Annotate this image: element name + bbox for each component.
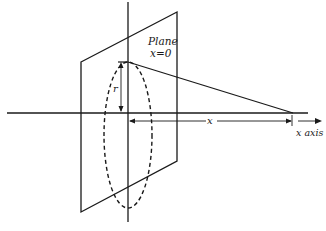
plane-label-line2: x=0 (150, 47, 172, 59)
distance-arrow-right-icon (286, 119, 292, 124)
distance-label: x (207, 115, 213, 126)
plane-label-line1: Plane (147, 35, 178, 47)
axis-label: x axis (296, 127, 323, 138)
axis-arrow-right-icon (315, 118, 322, 124)
ring-to-point-line (128, 62, 293, 113)
radius-arrow-down-icon (119, 106, 124, 112)
radius-label: r (113, 83, 119, 94)
ring-axis-diagram: r x x axis Plane x=0 (0, 0, 326, 231)
distance-arrow-left-icon (129, 119, 135, 124)
radius-arrow-up-icon (119, 62, 124, 68)
